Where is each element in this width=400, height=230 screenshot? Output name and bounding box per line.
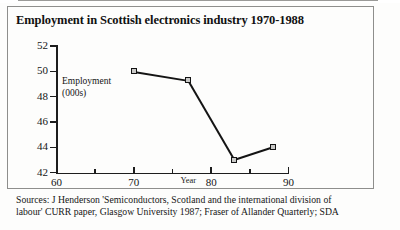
page-root: Employment in Scottish electronics indus…	[0, 0, 400, 230]
page-title: Employment in Scottish electronics indus…	[16, 13, 304, 28]
series-annotation-line2: (000s)	[62, 88, 111, 100]
source-note-line1: Sources: J Henderson 'Semiconductors, Sc…	[16, 194, 392, 206]
series-annotation: Employment (000s)	[62, 76, 111, 99]
source-note-line2: labour' CURR paper, Glasgow University 1…	[16, 206, 392, 218]
source-note: Sources: J Henderson 'Semiconductors, Sc…	[16, 194, 392, 217]
scan-edge	[0, 0, 400, 3]
series-annotation-line1: Employment	[62, 76, 111, 88]
